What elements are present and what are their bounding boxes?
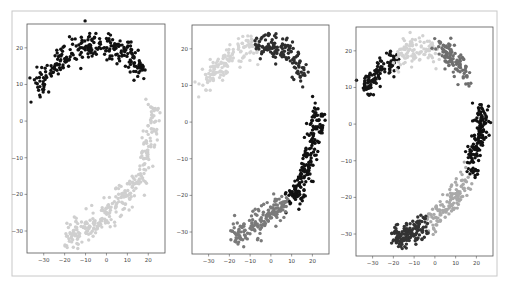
y-axis-ticks: 20100−10−20−30 [11,45,27,234]
x-axis-ticks: −30−20−1001020 [38,253,152,263]
figure: −30−20−100102020100−10−20−30 −30−20−1001… [0,0,505,291]
x-tick-label: −20 [388,260,400,266]
x-axis-ticks: −30−20−1001020 [203,254,317,264]
scatter-points [355,31,493,251]
y-tick-label: 20 [16,45,23,51]
x-tick-label: −30 [38,257,50,263]
cluster-dark-upper-right [253,32,310,89]
cluster-light-upper-left [193,34,263,98]
x-tick-label: 10 [124,257,131,263]
y-tick-label: 10 [16,81,23,87]
y-axis-ticks: 20100−10−20−30 [340,48,356,237]
cluster-black-right-arc [464,101,492,179]
y-tick-label: −10 [340,158,352,164]
cluster-black-upper-left [355,50,401,97]
cluster-gray-bottom [229,192,289,248]
x-tick-label: 20 [145,257,152,263]
scatter-points [193,32,326,249]
x-tick-label: −10 [408,260,420,266]
x-tick-label: −30 [367,260,379,266]
y-tick-label: 10 [345,84,352,90]
x-tick-label: −20 [224,258,236,264]
y-tick-label: 20 [181,46,188,52]
y-tick-label: 10 [181,82,188,88]
cluster-dark-bottom [390,214,430,251]
scatter-panel-2: −30−20−100102020100−10−20−30 [176,25,329,264]
y-tick-label: 20 [345,48,352,54]
y-tick-label: −30 [11,228,23,234]
y-tick-label: −10 [176,156,188,162]
axes-frame [27,24,165,253]
y-tick-label: −20 [340,194,352,200]
x-tick-label: 10 [452,260,459,266]
x-tick-label: −20 [59,257,71,263]
x-tick-label: 0 [105,257,109,263]
cluster-lower-arc [63,98,161,251]
cluster-upper-arc [28,19,147,104]
y-axis-ticks: 20100−10−20−30 [176,46,192,235]
y-tick-label: 0 [20,118,24,124]
y-tick-label: −10 [11,155,23,161]
y-tick-label: −20 [176,192,188,198]
y-tick-label: −30 [176,229,188,235]
y-tick-label: 0 [185,119,189,125]
x-tick-label: 20 [309,258,316,264]
y-tick-label: −30 [340,231,352,237]
scatter-panel-1: −30−20−100102020100−10−20−30 [11,19,165,263]
x-tick-label: −10 [244,258,256,264]
x-tick-label: 10 [288,258,295,264]
x-tick-label: 0 [433,260,437,266]
scatter-panel-3: −30−20−100102020100−10−20−30 [340,27,493,266]
x-tick-label: −30 [203,258,215,264]
y-tick-label: 0 [349,121,353,127]
x-tick-label: 0 [269,258,273,264]
cluster-gray-upper-right [430,37,472,88]
y-tick-label: −20 [11,191,23,197]
cluster-black-right-arc [284,95,327,215]
x-tick-label: −10 [80,257,92,263]
x-tick-label: 20 [473,260,480,266]
x-axis-ticks: −30−20−1001020 [367,256,481,266]
scatter-points [28,19,162,250]
